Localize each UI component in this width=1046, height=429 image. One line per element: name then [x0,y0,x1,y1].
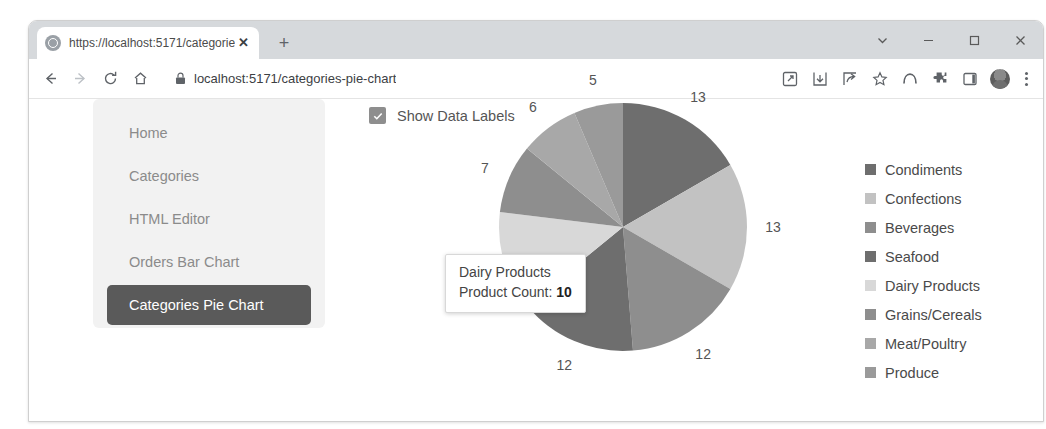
legend-item[interactable]: Dairy Products [865,271,1044,300]
pie-data-label: 5 [589,72,597,88]
sidebar-item-categories-pie-chart[interactable]: Categories Pie Chart [107,285,311,325]
pie-chart-svg [369,99,839,419]
legend-item[interactable]: Grains/Cereals [865,300,1044,329]
legend-label: Produce [885,365,939,381]
chart-tooltip: Dairy Products Product Count: 10 [445,254,586,313]
sidebar: Home Categories HTML Editor Orders Bar C… [93,99,325,328]
bookmark-star-icon[interactable] [865,64,895,94]
globe-icon [45,35,61,51]
legend-label: Grains/Cereals [885,307,982,323]
browser-window: https://localhost:5171/categorie: ✕ + [28,20,1044,422]
forward-icon[interactable] [65,64,95,94]
tab-strip: https://localhost:5171/categorie: ✕ + [29,21,1043,59]
tab-title: https://localhost:5171/categorie: [69,36,235,50]
extensions-puzzle-icon[interactable] [925,64,955,94]
address-bar[interactable]: localhost:5171/categories-pie-chart [165,66,767,92]
pie-chart: 1313121210765 Dairy Products Product Cou… [369,99,839,419]
legend-swatch-icon [865,251,876,262]
sidebar-item-home[interactable]: Home [107,113,311,153]
pie-data-label: 12 [556,357,572,373]
profile-avatar-icon[interactable] [985,64,1015,94]
split-screen-icon[interactable] [775,64,805,94]
legend-label: Condiments [885,162,962,178]
reload-icon[interactable] [95,64,125,94]
legend-label: Meat/Poultry [885,336,966,352]
legend-swatch-icon [865,280,876,291]
tooltip-metric: Product Count: 10 [459,282,572,302]
dot [1025,77,1028,80]
reading-mode-icon[interactable] [895,64,925,94]
lock-icon [175,72,186,85]
legend-swatch-icon [865,222,876,233]
legend-item[interactable]: Confections [865,184,1044,213]
sidebar-nav-list: Home Categories HTML Editor Orders Bar C… [93,99,325,325]
window-controls [859,21,1043,59]
legend-item[interactable]: Meat/Poultry [865,329,1044,358]
legend-swatch-icon [865,338,876,349]
avatar [990,69,1010,89]
tooltip-value: 10 [556,284,572,300]
legend-label: Confections [885,191,962,207]
legend-swatch-icon [865,309,876,320]
pie-data-label: 13 [690,89,706,105]
toolbar-icons [775,64,1037,94]
legend-swatch-icon [865,164,876,175]
pie-data-label: 6 [529,99,537,115]
sidebar-item-categories[interactable]: Categories [107,156,311,196]
more-menu-icon[interactable] [1015,64,1037,94]
tab-search-icon[interactable] [859,24,905,56]
chart-legend: CondimentsConfectionsBeveragesSeafoodDai… [865,155,1044,387]
legend-swatch-icon [865,367,876,378]
new-tab-button[interactable]: + [273,32,295,54]
sidebar-item-html-editor[interactable]: HTML Editor [107,199,311,239]
pie-data-label: 12 [695,346,711,362]
close-window-icon[interactable] [997,24,1043,56]
minimize-icon[interactable] [905,24,951,56]
legend-swatch-icon [865,193,876,204]
legend-label: Seafood [885,249,939,265]
browser-toolbar: localhost:5171/categories-pie-chart [29,59,1043,99]
dot [1025,83,1028,86]
close-icon[interactable]: ✕ [235,35,251,51]
legend-label: Dairy Products [885,278,980,294]
download-icon[interactable] [805,64,835,94]
url-text: localhost:5171/categories-pie-chart [194,71,396,86]
page-viewport: Home Categories HTML Editor Orders Bar C… [29,99,1043,419]
home-icon[interactable] [125,64,155,94]
legend-item[interactable]: Beverages [865,213,1044,242]
side-panel-icon[interactable] [955,64,985,94]
legend-label: Beverages [885,220,954,236]
tooltip-title: Dairy Products [459,262,572,282]
browser-tab[interactable]: https://localhost:5171/categorie: ✕ [37,27,259,59]
share-icon[interactable] [835,64,865,94]
legend-item[interactable]: Produce [865,358,1044,387]
pie-data-label: 7 [481,160,489,176]
pie-slice-group [499,103,747,351]
pie-data-label: 13 [765,219,781,235]
legend-item[interactable]: Seafood [865,242,1044,271]
sidebar-item-orders-bar-chart[interactable]: Orders Bar Chart [107,242,311,282]
tooltip-metric-label: Product Count: [459,284,552,300]
legend-item[interactable]: Condiments [865,155,1044,184]
dot [1025,72,1028,75]
back-icon[interactable] [35,64,65,94]
maximize-icon[interactable] [951,24,997,56]
